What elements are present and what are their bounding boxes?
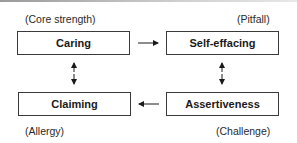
- arrows-layer: [0, 0, 297, 143]
